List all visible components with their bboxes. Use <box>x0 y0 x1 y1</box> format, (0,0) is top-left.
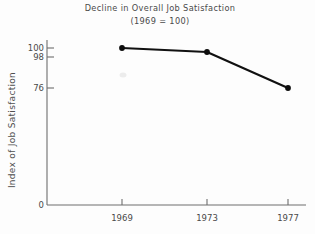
x-tick-label-1977: 1977 <box>277 213 299 223</box>
data-point-1969 <box>119 45 125 51</box>
scan-artifact-smudge <box>120 73 127 78</box>
x-tick-label-1969: 1969 <box>111 213 133 223</box>
chart-page: Decline in Overall Job Satisfaction (196… <box>0 0 315 234</box>
y-tick-label-0: 0 <box>39 200 44 210</box>
chart-subtitle: (1969 = 100) <box>130 16 189 26</box>
job-satisfaction-line-chart: Decline in Overall Job Satisfaction (196… <box>0 0 315 234</box>
chart-title: Decline in Overall Job Satisfaction <box>85 3 236 13</box>
data-point-1973 <box>204 49 210 55</box>
data-point-1977 <box>285 85 291 91</box>
y-axis-title: Index of Job Satisfaction <box>7 72 17 188</box>
y-tick-label-76: 76 <box>33 83 44 93</box>
y-tick-label-98: 98 <box>33 52 44 62</box>
x-tick-label-1973: 1973 <box>196 213 218 223</box>
